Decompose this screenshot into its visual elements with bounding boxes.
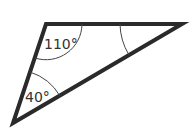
triangle-diagram: 110° 40° <box>0 0 195 139</box>
angle-label-40: 40° <box>25 89 50 105</box>
angle-label-110: 110° <box>44 36 78 52</box>
triangle <box>13 24 182 123</box>
angle-arc-right <box>120 24 129 55</box>
